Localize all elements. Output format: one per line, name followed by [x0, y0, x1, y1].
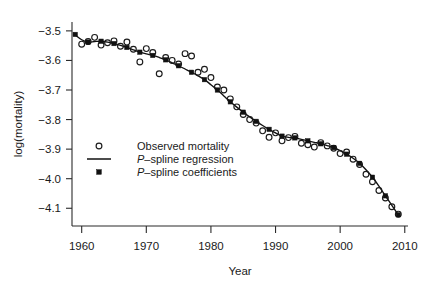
- coefficient-point: [254, 119, 258, 123]
- x-tick-label-0: 1960: [69, 240, 95, 252]
- coefficient-point: [125, 45, 129, 49]
- x-tick-label-2: 1980: [198, 240, 224, 252]
- coefficient-point: [163, 58, 167, 62]
- coefficient-point: [357, 161, 361, 165]
- coefficient-point: [228, 100, 232, 104]
- coefficient-point: [215, 88, 219, 92]
- coefficient-point: [344, 152, 348, 156]
- y-tick-label-1: −3.6: [38, 54, 61, 66]
- coefficient-point: [396, 213, 400, 217]
- coefficient-point: [241, 110, 245, 114]
- coefficient-point: [99, 39, 103, 43]
- x-axis-title: Year: [228, 265, 251, 277]
- y-tick-label-6: −4.1: [38, 202, 61, 214]
- coefficient-point: [112, 41, 116, 45]
- coefficient-point: [319, 142, 323, 146]
- x-tick-label-1: 1970: [134, 240, 160, 252]
- x-tick-label-3: 1990: [263, 240, 289, 252]
- coefficient-point: [86, 40, 90, 44]
- coefficient-point: [383, 194, 387, 198]
- coefficient-point: [202, 77, 206, 81]
- legend-label-2: P–spline coefficients: [137, 166, 238, 178]
- coefficient-point: [267, 127, 271, 131]
- y-tick-label-3: −3.8: [38, 114, 61, 126]
- y-tick-label-5: −4.0: [38, 173, 61, 185]
- x-tick-label-4: 2000: [327, 240, 353, 252]
- x-tick-label-5: 2010: [392, 240, 418, 252]
- coefficient-point: [331, 145, 335, 149]
- coefficient-point: [370, 175, 374, 179]
- y-tick-label-4: −3.9: [38, 143, 61, 155]
- legend-label-0: Observed mortality: [137, 140, 230, 152]
- coefficient-point: [176, 64, 180, 68]
- coefficient-point: [189, 70, 193, 74]
- coefficient-point: [73, 32, 77, 36]
- legend-label-1: P–spline regression: [137, 153, 234, 165]
- coefficient-point: [293, 136, 297, 140]
- coefficient-point: [280, 134, 284, 138]
- coefficient-point: [151, 53, 155, 57]
- coefficient-point: [306, 139, 310, 143]
- y-axis-title: log(mortality): [12, 91, 24, 158]
- y-tick-label-2: −3.7: [38, 84, 61, 96]
- y-tick-label-0: −3.5: [38, 25, 61, 37]
- coefficient-point: [138, 50, 142, 54]
- legend-square-icon: [97, 170, 102, 175]
- chart-canvas: −3.5−3.6−3.7−3.8−3.9−4.0−4.1 log(mortali…: [0, 0, 430, 293]
- mortality-chart-figure: −3.5−3.6−3.7−3.8−3.9−4.0−4.1 log(mortali…: [0, 0, 430, 293]
